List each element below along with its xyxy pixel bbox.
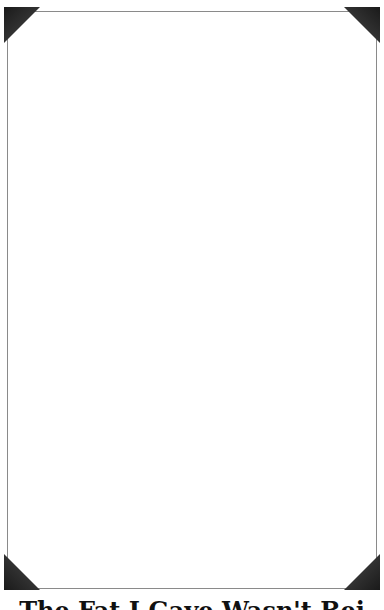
corner-mount-top-right-icon: [344, 7, 380, 43]
corner-mount-bottom-right-icon: [344, 554, 380, 590]
document-page: The Fat I Gave Wasn't Bei: [0, 0, 384, 610]
corner-mount-bottom-left-icon: [4, 554, 40, 590]
document-title: The Fat I Gave Wasn't Bei: [0, 597, 384, 610]
photo-frame-border: [7, 11, 377, 589]
corner-mount-top-left-icon: [4, 7, 40, 43]
